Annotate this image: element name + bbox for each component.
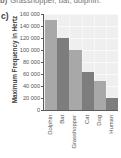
x-axis-label-slot: Cat [81, 113, 93, 158]
bar [106, 98, 118, 110]
bar [69, 50, 81, 110]
y-axis-tick-label: 60 000 [23, 71, 40, 77]
y-axis-tick-label: 20 000 [23, 95, 40, 101]
y-axis-tick-marks [41, 14, 44, 110]
bar-chart-figure: Maximum Frequency in Hertz 160 000140 00… [0, 8, 121, 158]
y-axis-tick-mark [41, 74, 44, 75]
y-axis-tick-mark [41, 26, 44, 27]
y-axis-tick-mark [41, 50, 44, 51]
y-axis-tick-label: 100 000 [20, 47, 40, 53]
x-axis-tick-label: Bat [59, 115, 65, 124]
y-axis-tick-label: 140 000 [20, 23, 40, 29]
bar-slot [45, 14, 57, 110]
bar-series [45, 14, 118, 110]
previous-item-caption: b)Grasshopper, bat, dolphin. [0, 0, 121, 6]
y-axis-tick-mark [41, 86, 44, 87]
y-axis-tick-mark [41, 38, 44, 39]
y-axis-tick-label: 0 [37, 107, 40, 113]
x-axis-label-slot: Bat [56, 113, 68, 158]
y-axis-tick-label: 120 000 [20, 35, 40, 41]
x-axis-tick-label: Cat [84, 115, 90, 124]
bar-slot [57, 14, 69, 110]
x-axis-tick-label: Grasshopper [71, 115, 77, 149]
y-axis-tick-mark [41, 14, 44, 15]
x-axis-tick-label: Dog [96, 115, 102, 126]
x-axis-tick-label: Dolphin [47, 115, 53, 135]
y-axis-tick-mark [41, 98, 44, 99]
y-axis-tick-label: 40 000 [23, 83, 40, 89]
x-axis-label-slot: Human [105, 113, 117, 158]
bar-slot [94, 14, 106, 110]
plot-area [43, 14, 118, 111]
bar [45, 20, 57, 110]
y-axis-tick-label: 80 000 [23, 59, 40, 65]
previous-item-text: Grasshopper, bat, dolphin. [10, 0, 101, 5]
x-axis-tick-label: Human [108, 115, 114, 134]
bar [94, 81, 106, 110]
y-axis-tick-mark [41, 110, 44, 111]
bar-slot [82, 14, 94, 110]
y-axis-tick-label: 160 000 [20, 11, 40, 17]
previous-item-label: b) [0, 0, 7, 5]
x-axis-label-slot: Grasshopper [68, 113, 80, 158]
x-axis-label-slot: Dolphin [44, 113, 56, 158]
y-axis-tick-mark [41, 62, 44, 63]
bar [82, 72, 94, 110]
y-axis-tick-labels: 160 000140 000120 000100 00080 00060 000… [16, 8, 42, 110]
x-axis-label-slot: Dog [93, 113, 105, 158]
bar-slot [106, 14, 118, 110]
x-axis-tick-labels: DolphinBatGrasshopperCatDogHuman [44, 113, 117, 158]
bar [57, 38, 69, 110]
bar-slot [69, 14, 81, 110]
